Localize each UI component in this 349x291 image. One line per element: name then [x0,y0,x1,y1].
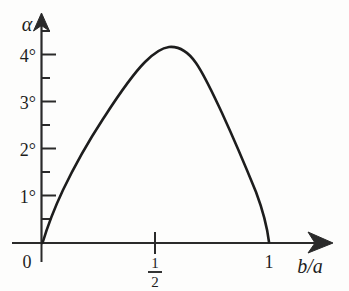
curve-alpha [43,47,270,243]
alpha-vs-ratio-plot: 4° 3° 2° 1° 0 1 2 1 α b/a [0,0,349,291]
fraction-numerator: 1 [151,255,159,271]
y-tick-label-1: 1° [20,187,36,207]
x-tick-label-1: 1 [265,252,274,272]
x-tick-label-0: 0 [23,252,32,272]
x-axis-title: b/a [297,255,323,277]
y-tick-label-3: 3° [20,93,36,113]
y-tick-label-4: 4° [20,46,36,66]
x-tick-label-half: 1 2 [148,255,162,290]
y-tick-label-2: 2° [20,140,36,160]
chart-figure: 4° 3° 2° 1° 0 1 2 1 α b/a [0,0,349,291]
y-axis-title: α [22,13,33,35]
x-axis [12,232,333,253]
y-axis-ticks [42,31,57,219]
x-axis-ticks [42,232,156,262]
fraction-denominator: 2 [151,274,159,290]
